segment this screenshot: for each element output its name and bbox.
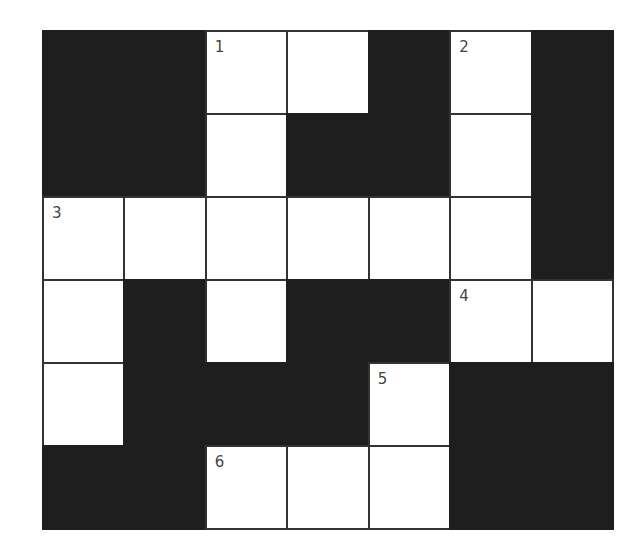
crossword-cell[interactable]: 5 — [368, 362, 451, 447]
block-cell — [123, 279, 206, 364]
clue-number: 6 — [215, 453, 225, 471]
block-cell — [286, 362, 369, 447]
block-cell — [531, 30, 614, 115]
crossword-cell[interactable] — [42, 279, 125, 364]
block-cell — [42, 113, 125, 198]
crossword-cell[interactable] — [449, 113, 532, 198]
crossword-cell[interactable] — [531, 279, 614, 364]
block-cell — [531, 445, 614, 530]
block-cell — [123, 30, 206, 115]
block-cell — [531, 362, 614, 447]
block-cell — [205, 362, 288, 447]
crossword-cell[interactable] — [368, 196, 451, 281]
crossword-cell[interactable] — [42, 362, 125, 447]
block-cell — [123, 113, 206, 198]
clue-number: 5 — [378, 370, 388, 388]
block-cell — [42, 30, 125, 115]
crossword-cell[interactable]: 3 — [42, 196, 125, 281]
crossword-cell[interactable] — [286, 445, 369, 530]
block-cell — [368, 279, 451, 364]
clue-number: 2 — [459, 38, 469, 56]
clue-number: 4 — [459, 287, 469, 305]
crossword-grid: 123456 — [42, 30, 612, 528]
crossword-cell[interactable]: 2 — [449, 30, 532, 115]
block-cell — [286, 113, 369, 198]
crossword-cell[interactable]: 1 — [205, 30, 288, 115]
block-cell — [368, 113, 451, 198]
crossword-cell[interactable]: 6 — [205, 445, 288, 530]
crossword-cell[interactable] — [368, 445, 451, 530]
crossword-cell[interactable] — [123, 196, 206, 281]
block-cell — [531, 113, 614, 198]
crossword-cell[interactable]: 4 — [449, 279, 532, 364]
crossword-cell[interactable] — [205, 279, 288, 364]
block-cell — [123, 445, 206, 530]
crossword-cell[interactable] — [205, 113, 288, 198]
block-cell — [42, 445, 125, 530]
block-cell — [531, 196, 614, 281]
clue-number: 3 — [52, 204, 62, 222]
crossword-cell[interactable] — [286, 30, 369, 115]
crossword-cell[interactable] — [449, 196, 532, 281]
block-cell — [368, 30, 451, 115]
crossword-cell[interactable] — [286, 196, 369, 281]
block-cell — [123, 362, 206, 447]
block-cell — [286, 279, 369, 364]
clue-number: 1 — [215, 38, 225, 56]
crossword-cell[interactable] — [205, 196, 288, 281]
block-cell — [449, 362, 532, 447]
block-cell — [449, 445, 532, 530]
